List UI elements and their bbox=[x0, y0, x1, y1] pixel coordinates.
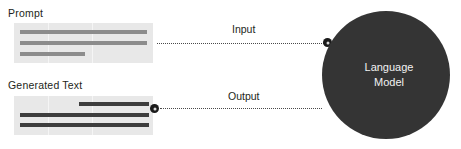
input-connector-line bbox=[157, 43, 324, 44]
connector-dot-center bbox=[326, 41, 329, 44]
generated-text-line bbox=[20, 113, 149, 117]
prompt-text-line bbox=[20, 30, 147, 34]
prompt-section-label: Prompt bbox=[8, 8, 43, 19]
output-edge-label: Output bbox=[228, 91, 260, 102]
language-model-node[interactable]: Language Model bbox=[322, 11, 450, 139]
diagram-canvas: Prompt Generated Text Input Output Langu… bbox=[0, 0, 461, 149]
connector-dot-center bbox=[153, 107, 156, 110]
prompt-text-line bbox=[20, 41, 147, 45]
input-edge-label: Input bbox=[232, 24, 255, 35]
prompt-text-line bbox=[20, 52, 85, 56]
generated-text-line bbox=[79, 102, 149, 106]
output-connector-line bbox=[160, 108, 322, 109]
generated-text-line bbox=[20, 123, 149, 127]
generated-text-panel[interactable] bbox=[14, 96, 153, 135]
language-model-label: Language Model bbox=[359, 60, 414, 90]
prompt-text-panel[interactable] bbox=[14, 23, 153, 63]
output-connector-dot[interactable] bbox=[150, 104, 159, 113]
generated-text-section-label: Generated Text bbox=[8, 80, 82, 91]
